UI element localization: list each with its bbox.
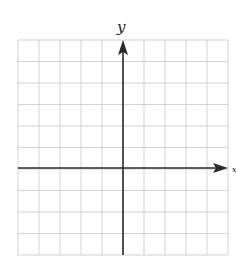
y-axis-label: y: [116, 18, 126, 36]
coordinate-plane: y x: [0, 0, 236, 257]
x-axis-label: x: [232, 165, 236, 174]
